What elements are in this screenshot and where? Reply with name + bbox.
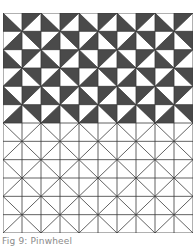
pinwheel-pattern-diagram <box>3 13 193 233</box>
figure-caption: Fig 9: Pinwheel <box>2 236 72 246</box>
